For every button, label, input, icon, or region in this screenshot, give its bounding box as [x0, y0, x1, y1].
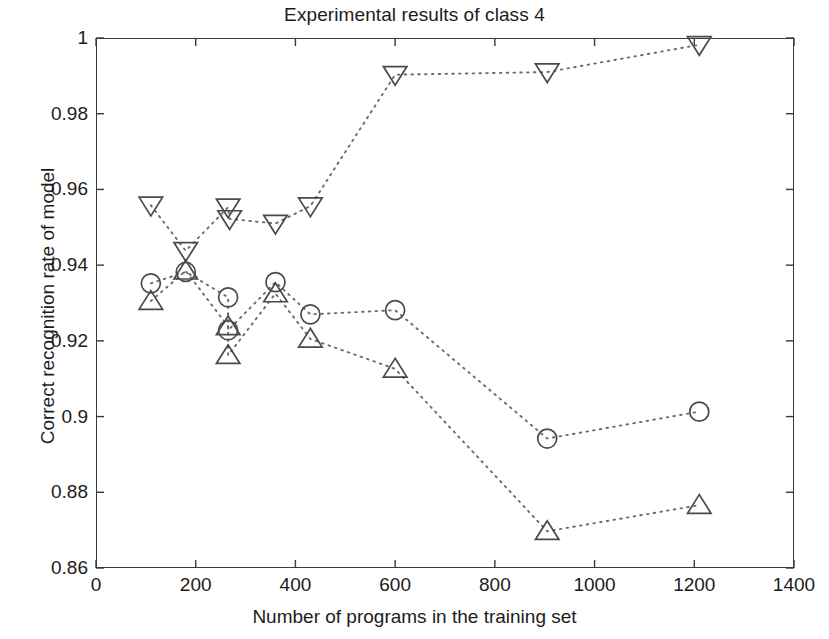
x-tick-label: 600: [379, 574, 411, 596]
data-point-circle: [219, 288, 238, 307]
x-tick-label: 200: [180, 574, 212, 596]
data-point-triangle-up: [383, 358, 407, 377]
figure-canvas: Experimental results of class 4 0.860.88…: [0, 0, 829, 639]
data-point-triangle-up: [688, 495, 712, 514]
data-point-triangle-down: [174, 243, 198, 262]
chart-title: Experimental results of class 4: [0, 4, 829, 26]
data-point-triangle-down: [535, 64, 559, 83]
x-tick-label: 0: [91, 574, 102, 596]
series-lines-layer: [151, 45, 699, 531]
x-tick-label: 1000: [573, 574, 615, 596]
y-tick-label: 1: [77, 27, 88, 49]
tick-marks-layer: [96, 38, 794, 568]
x-axis-title: Number of programs in the training set: [0, 606, 829, 628]
x-tick-label: 1200: [673, 574, 715, 596]
plot-svg: [96, 38, 794, 568]
data-point-triangle-down: [383, 67, 407, 86]
data-point-triangle-down: [299, 198, 323, 217]
data-point-circle: [690, 402, 709, 421]
y-axis-title: Correct recognition rate of model: [37, 106, 59, 506]
x-tick-label: 800: [479, 574, 511, 596]
x-tick-label: 1400: [773, 574, 815, 596]
data-point-triangle-down: [688, 37, 712, 56]
series-line-up-triangle-series: [151, 271, 699, 531]
x-tick-label: 400: [280, 574, 312, 596]
x-axis-tick-labels: 0200400600800100012001400: [0, 574, 829, 604]
data-point-circle: [301, 305, 320, 324]
data-point-triangle-down: [264, 215, 288, 234]
series-markers-layer: [139, 37, 711, 540]
series-line-down-triangle-series: [151, 45, 699, 251]
series-line-circle-series: [151, 272, 699, 439]
data-point-circle: [219, 321, 238, 340]
y-tick-label: 0.9: [62, 406, 88, 428]
